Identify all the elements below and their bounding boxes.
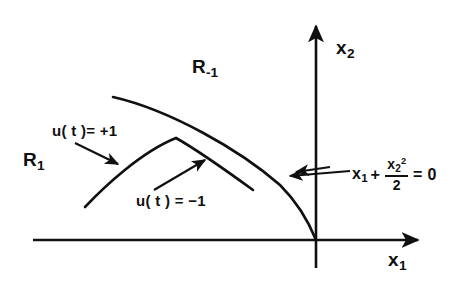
pointer-control-plus-arrow	[75, 143, 118, 164]
equation-plus-sign: +	[371, 167, 381, 183]
inner-trajectory-right-branch	[176, 138, 253, 190]
region-label-minus-one-base: R	[192, 56, 206, 77]
region-label-one-subscript: 1	[37, 158, 45, 173]
equation-term1-subscript: 1	[361, 172, 367, 184]
equation-numerator: x22	[385, 157, 408, 175]
equation-fraction: x22 2	[385, 157, 408, 192]
pointer-equation-arrow-secondary	[296, 167, 330, 172]
pointer-arrows-group	[75, 143, 350, 190]
axis-label-x1: x1	[388, 250, 406, 273]
equation-denominator: 2	[391, 177, 403, 192]
axis-label-x1-base: x	[388, 249, 399, 270]
equation-term1: x1	[352, 166, 368, 185]
phase-plane-diagram: R-1 R1 x2 x1 u( t )= +1 u( t ) = −1 x1 +…	[0, 0, 462, 284]
equation-term1-base: x	[352, 165, 361, 182]
control-label-plus-one: u( t )= +1	[52, 123, 118, 138]
equation-numerator-superscript: 2	[401, 156, 406, 166]
switching-curve-equation: x1 + x22 2 = 0	[352, 158, 437, 193]
pointer-control-minus-arrow	[154, 160, 205, 190]
axis-label-x2-subscript: 2	[347, 46, 355, 61]
region-label-minus-one-subscript: -1	[206, 65, 218, 80]
region-label-one: R1	[23, 150, 45, 173]
region-label-minus-one: R-1	[192, 57, 218, 80]
diagram-canvas	[0, 0, 462, 284]
region-label-one-base: R	[23, 149, 37, 170]
control-label-minus-one: u( t ) = −1	[136, 193, 206, 208]
axis-label-x2-base: x	[336, 37, 347, 58]
axis-label-x1-subscript: 1	[399, 258, 407, 273]
switching-curve	[113, 97, 316, 240]
axis-label-x2: x2	[336, 38, 354, 61]
equation-equals-zero: = 0	[413, 167, 437, 183]
